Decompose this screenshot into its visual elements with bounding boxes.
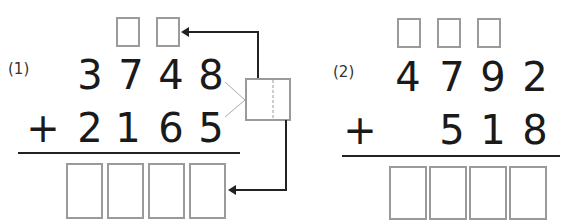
digit: 5: [434, 110, 470, 150]
carry-box[interactable]: [437, 18, 461, 48]
answer-box[interactable]: [389, 166, 427, 220]
carry-box[interactable]: [397, 18, 421, 48]
digit: 4: [390, 57, 426, 97]
digit: 2: [517, 57, 553, 97]
answer-box[interactable]: [509, 166, 547, 220]
ones-arrow: [234, 120, 286, 190]
carry-arrow: [187, 32, 258, 78]
carry-box[interactable]: [477, 18, 501, 48]
arrowhead-icon: [228, 185, 236, 195]
connector-bracket: [225, 82, 245, 117]
digit: 8: [517, 110, 553, 150]
answer-box[interactable]: [429, 166, 467, 220]
plus-operator: +: [342, 110, 378, 150]
arrowhead-icon: [181, 27, 189, 37]
digit: 1: [475, 110, 511, 150]
answer-box[interactable]: [469, 166, 507, 220]
digit: 7: [434, 57, 470, 97]
problem-2-label: (2): [333, 63, 354, 81]
digit: 9: [475, 57, 511, 97]
sum-rule: [342, 155, 560, 157]
